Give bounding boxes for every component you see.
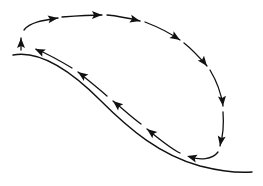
diagram-svg bbox=[0, 0, 263, 186]
arrowhead-icon bbox=[186, 152, 198, 162]
flow-arrows bbox=[17, 11, 227, 162]
circulation-diagram bbox=[0, 0, 263, 186]
circulation-loop bbox=[21, 15, 223, 159]
arrowhead-icon bbox=[33, 45, 45, 56]
arrowhead-icon bbox=[129, 15, 141, 25]
arrowhead-icon bbox=[218, 96, 227, 107]
arrowhead-icon bbox=[169, 31, 182, 43]
